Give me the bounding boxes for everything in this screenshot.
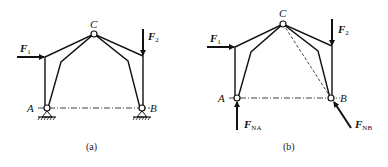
- label-f1-b: F1: [209, 32, 221, 46]
- frame-outer-b: [235, 24, 332, 98]
- caption-a: (a): [86, 141, 97, 153]
- pin-support-b-icon: [133, 111, 151, 120]
- caption-b: (b): [283, 141, 295, 153]
- label-f1-a: F1: [19, 42, 31, 56]
- frame-inner-a: [48, 34, 140, 108]
- label-a-a: A: [26, 102, 34, 114]
- hinge-b-b: [328, 95, 334, 101]
- label-f2-b: F2: [337, 23, 349, 37]
- pin-support-a-icon: [38, 111, 56, 120]
- label-b-b: B: [340, 92, 347, 104]
- label-a-b: A: [217, 92, 225, 104]
- hinge-a-b: [234, 95, 240, 101]
- hinge-c-b: [280, 21, 286, 27]
- frame-inner-b: [238, 24, 330, 98]
- figure-a: C A B F1 F2 (a): [17, 18, 159, 153]
- label-c-a: C: [90, 18, 98, 30]
- hinge-c-a: [91, 31, 97, 37]
- label-f2-a: F2: [147, 30, 159, 44]
- label-fna: FNA: [243, 118, 261, 132]
- force-fnb-arrow: [334, 102, 351, 128]
- figure-b: C A B F1 F2 FNA FNB (b): [207, 7, 372, 153]
- hinge-a-a: [44, 105, 50, 111]
- label-fnb: FNB: [354, 118, 372, 132]
- label-b-a: B: [150, 102, 157, 114]
- frame-outer-a: [45, 34, 143, 108]
- hinge-b-a: [139, 105, 145, 111]
- label-c-b: C: [279, 7, 287, 19]
